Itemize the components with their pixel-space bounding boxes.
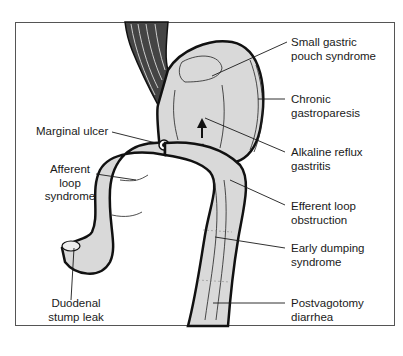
label-afferent-loop: Afferent loop syndrome <box>44 163 96 204</box>
efferent-limb <box>165 142 246 326</box>
label-alkaline-reflux: Alkaline reflux gastritis <box>291 146 363 173</box>
label-postvagotomy: Postvagotomy diarrhea <box>291 297 364 324</box>
label-duodenal-stump: Duodenal stump leak <box>46 297 106 324</box>
label-marginal-ulcer: Marginal ulcer <box>36 125 108 139</box>
label-small-gastric-pouch: Small gastric pouch syndrome <box>291 36 376 63</box>
label-chronic-gastroparesis: Chronic gastroparesis <box>291 93 360 120</box>
label-early-dumping: Early dumping syndrome <box>291 242 365 269</box>
label-efferent-loop: Efferent loop obstruction <box>291 200 356 227</box>
afferent-limb <box>62 140 169 274</box>
